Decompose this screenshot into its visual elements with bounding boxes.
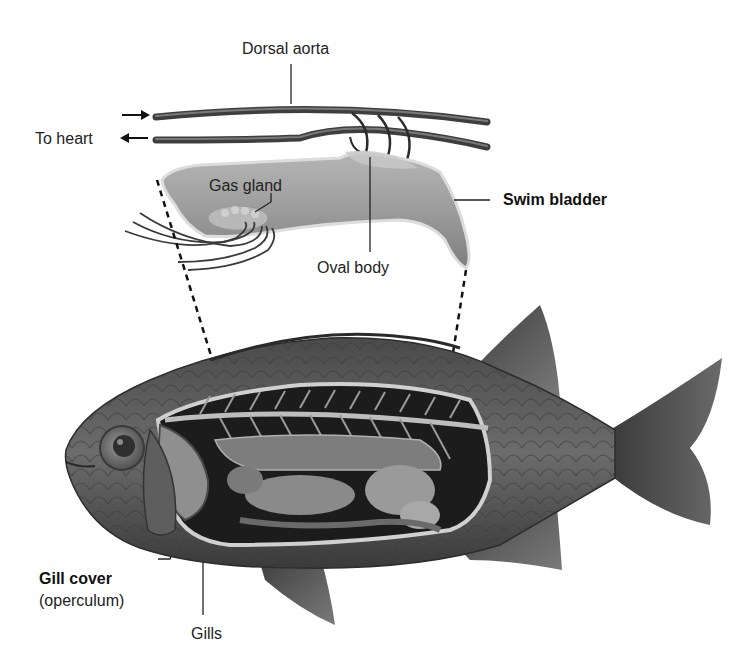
label-dorsal-aorta: Dorsal aorta: [242, 41, 329, 57]
diagram-artwork: [0, 0, 755, 661]
blood-vessels: [156, 109, 487, 160]
swim-bladder-diagram: Dorsal aorta To heart Gas gland Oval bod…: [0, 0, 755, 661]
label-gill-cover: Gill cover: [39, 571, 112, 587]
label-to-heart: To heart: [35, 131, 93, 147]
label-oval-body: Oval body: [317, 260, 389, 276]
label-operculum: (operculum): [39, 593, 124, 609]
arrow-right-icon: [141, 110, 150, 120]
fish-illustration: [66, 305, 723, 625]
flow-arrows: [120, 110, 150, 143]
label-gas-gland: Gas gland: [209, 178, 282, 194]
label-swim-bladder: Swim bladder: [503, 192, 607, 208]
swim-bladder-shape: [162, 153, 469, 268]
arrow-left-icon: [120, 133, 129, 143]
label-gills: Gills: [191, 626, 222, 642]
